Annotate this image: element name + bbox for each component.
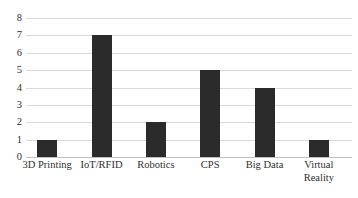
y-axis-tick-label: 7 bbox=[2, 30, 22, 41]
y-axis-tick-label: 5 bbox=[2, 65, 22, 76]
bar-chart: 876543210 3D PrintingIoT/RFIDRoboticsCPS… bbox=[0, 0, 358, 198]
bar bbox=[309, 140, 329, 157]
axis-baseline bbox=[26, 157, 352, 158]
bar bbox=[146, 122, 166, 157]
y-axis-tick-label: 4 bbox=[2, 82, 22, 93]
bars-container bbox=[26, 18, 352, 157]
x-axis-category-label: Big Data bbox=[246, 159, 284, 172]
bar bbox=[92, 35, 112, 157]
y-axis-tick-label: 2 bbox=[2, 117, 22, 128]
y-axis-tick-label: 8 bbox=[2, 13, 22, 24]
x-axis-category-label: Virtual Reality bbox=[304, 159, 334, 184]
x-axis-category-label: 3D Printing bbox=[23, 159, 72, 172]
x-axis-category-label: Robotics bbox=[137, 159, 174, 172]
y-axis-tick-label: 0 bbox=[2, 152, 22, 163]
x-axis-category-label: CPS bbox=[201, 159, 220, 172]
y-axis-tick-labels: 876543210 bbox=[0, 18, 22, 157]
y-axis-tick-label: 3 bbox=[2, 100, 22, 111]
bar bbox=[37, 140, 57, 157]
bar bbox=[200, 70, 220, 157]
x-axis-category-label: IoT/RFID bbox=[81, 159, 123, 172]
x-axis-category-labels: 3D PrintingIoT/RFIDRoboticsCPSBig DataVi… bbox=[26, 159, 352, 198]
bar bbox=[255, 88, 275, 158]
y-axis-tick-label: 1 bbox=[2, 134, 22, 145]
y-axis-tick-label: 6 bbox=[2, 48, 22, 59]
